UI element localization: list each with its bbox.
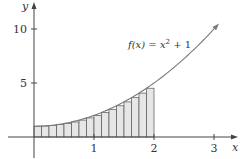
riemann-rectangle bbox=[102, 113, 110, 137]
x-tick-label: 2 bbox=[151, 142, 158, 155]
riemann-rectangle bbox=[109, 109, 117, 137]
y-tick-label: 5 bbox=[20, 77, 27, 90]
riemann-rectangle bbox=[57, 125, 65, 137]
riemann-rectangle bbox=[34, 126, 42, 137]
riemann-rectangle bbox=[42, 126, 50, 137]
riemann-rectangle bbox=[49, 126, 57, 137]
riemann-rectangle bbox=[64, 124, 72, 138]
x-tick-label: 3 bbox=[211, 142, 218, 155]
riemann-rectangle bbox=[94, 115, 102, 137]
riemann-rectangle bbox=[87, 118, 95, 137]
riemann-rectangle bbox=[72, 122, 80, 137]
x-tick-label: 1 bbox=[91, 142, 98, 155]
riemann-rectangle bbox=[79, 120, 87, 137]
riemann-rectangle bbox=[124, 102, 132, 137]
riemann-rectangle bbox=[139, 93, 147, 137]
y-axis-label: y bbox=[21, 0, 29, 13]
riemann-rectangle bbox=[117, 106, 125, 137]
function-label: f(x) = x2 + 1 bbox=[127, 38, 191, 50]
riemann-rectangle bbox=[147, 88, 155, 137]
x-axis-arrow-icon bbox=[231, 135, 238, 140]
y-axis-arrow-icon bbox=[32, 2, 37, 9]
riemann-sum-chart: 123510 y x f(x) = x2 + 1 bbox=[0, 0, 240, 159]
x-axis-label: x bbox=[232, 141, 239, 154]
riemann-rectangle bbox=[132, 98, 140, 137]
y-tick-label: 10 bbox=[13, 23, 27, 36]
